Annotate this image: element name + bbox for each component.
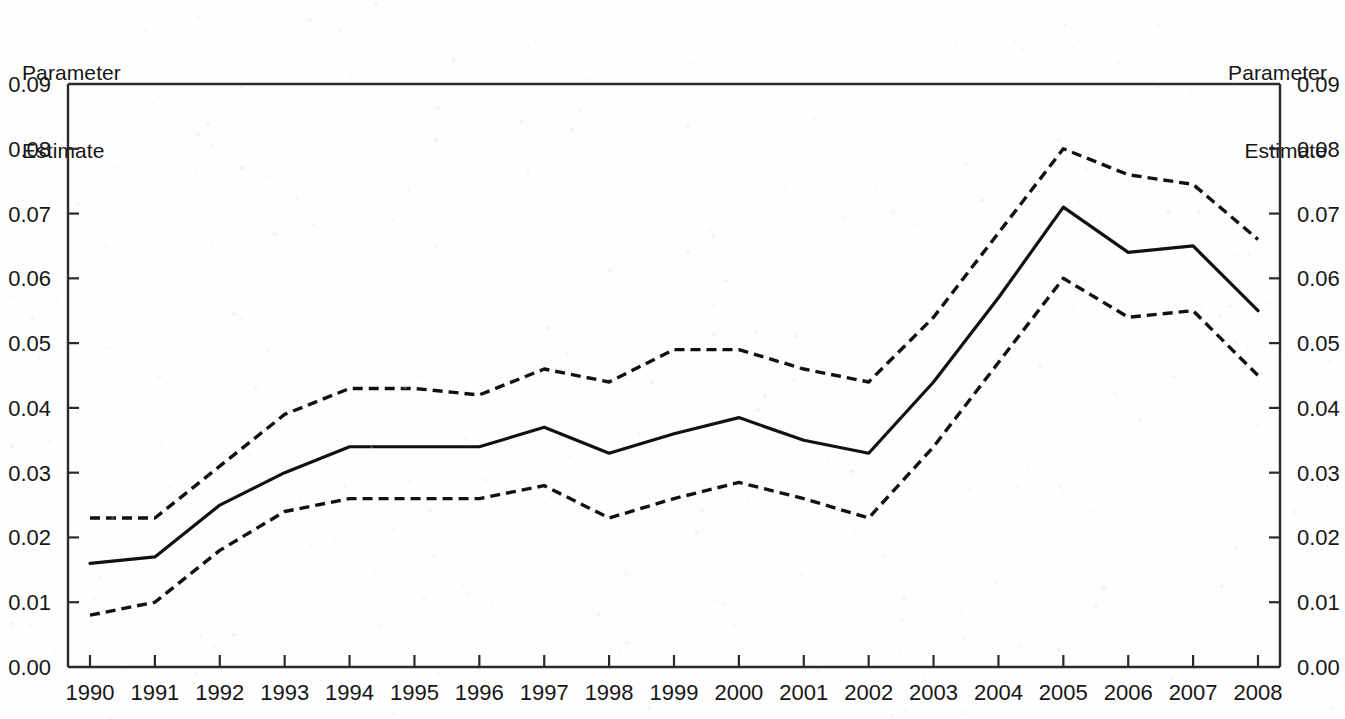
y-axis-left-tick-label: 0.00 — [8, 655, 51, 680]
y-axis-left-tick-label: 0.09 — [8, 72, 51, 97]
data-series-group — [90, 149, 1258, 615]
y-axis-left-tick-label: 0.03 — [8, 461, 51, 486]
y-axis-left-tick-label: 0.02 — [8, 525, 51, 550]
x-axis-tick-label: 2006 — [1104, 680, 1153, 705]
x-axis-tick-label: 2004 — [974, 680, 1023, 705]
series-line — [90, 149, 1258, 518]
y-axis-left-tick-label: 0.05 — [8, 331, 51, 356]
y-axis-right-tick-label: 0.03 — [1297, 461, 1340, 486]
x-axis-tick-label: 1991 — [130, 680, 179, 705]
x-axis-tick-label: 1997 — [520, 680, 569, 705]
y-axis-right-tick-label: 0.08 — [1297, 137, 1340, 162]
y-axis-left-tick-label: 0.07 — [8, 202, 51, 227]
y-axis-right-tick-label: 0.05 — [1297, 331, 1340, 356]
x-axis-tick-label: 1992 — [195, 680, 244, 705]
x-axis-tick-label: 1995 — [390, 680, 439, 705]
y-axis-right-tick-label: 0.04 — [1297, 396, 1340, 421]
x-axis-ticks: 1990199119921993199419951996199719981999… — [66, 655, 1283, 705]
y-axis-right-tick-label: 0.02 — [1297, 525, 1340, 550]
chart-figure: Parameter Estimate Parameter Estimate 0.… — [0, 0, 1345, 719]
x-axis-tick-label: 2002 — [844, 680, 893, 705]
series-line — [90, 278, 1258, 615]
x-axis-tick-label: 2003 — [909, 680, 958, 705]
x-axis-tick-label: 2001 — [779, 680, 828, 705]
x-axis-tick-label: 1990 — [66, 680, 115, 705]
line-chart-plot: 0.000.010.020.030.040.050.060.070.080.09… — [0, 0, 1345, 719]
x-axis-tick-label: 2008 — [1234, 680, 1283, 705]
y-axis-left-tick-label: 0.06 — [8, 266, 51, 291]
y-axis-right-tick-label: 0.01 — [1297, 590, 1340, 615]
x-axis-tick-label: 1999 — [650, 680, 699, 705]
x-axis-tick-label: 2005 — [1039, 680, 1088, 705]
x-axis-tick-label: 2007 — [1169, 680, 1218, 705]
y-axis-left-tick-label: 0.08 — [8, 137, 51, 162]
y-axis-left-tick-label: 0.04 — [8, 396, 51, 421]
y-axis-right-tick-label: 0.09 — [1297, 72, 1340, 97]
y-axis-right-tick-label: 0.00 — [1297, 655, 1340, 680]
x-axis-tick-label: 1996 — [455, 680, 504, 705]
x-axis-tick-label: 2000 — [714, 680, 763, 705]
y-axis-right-tick-label: 0.07 — [1297, 202, 1340, 227]
y-axis-right-tick-label: 0.06 — [1297, 266, 1340, 291]
plot-frame — [68, 84, 1280, 667]
x-axis-tick-label: 1998 — [585, 680, 634, 705]
y-axis-left-tick-label: 0.01 — [8, 590, 51, 615]
series-line — [90, 207, 1258, 563]
x-axis-tick-label: 1993 — [260, 680, 309, 705]
x-axis-tick-label: 1994 — [325, 680, 374, 705]
